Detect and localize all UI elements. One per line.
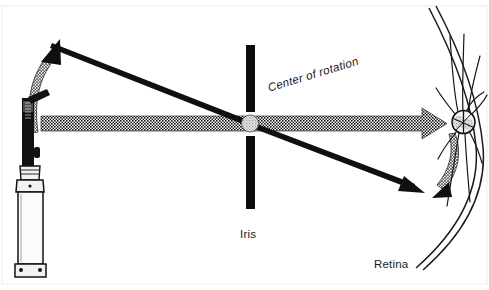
label-retina: Retina — [374, 258, 408, 270]
iris-upper-bar — [246, 45, 255, 112]
retinoscopy-center-of-rotation-diagram — [0, 0, 489, 290]
iris-lower-bar — [246, 136, 255, 209]
figure-background — [0, 0, 489, 290]
center-of-rotation-marker — [242, 115, 259, 132]
label-iris: Iris — [240, 228, 256, 240]
